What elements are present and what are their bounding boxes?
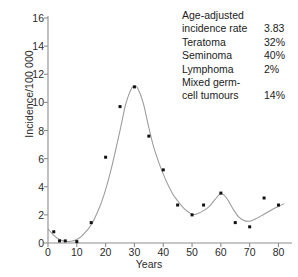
data-point [263, 197, 266, 200]
legend-row: Seminoma40% [182, 49, 294, 62]
legend-label: Teratoma [182, 36, 226, 49]
data-point [202, 204, 205, 207]
data-point [277, 204, 280, 207]
legend-value [264, 76, 294, 89]
data-point [104, 156, 107, 159]
legend-row: Age-adjusted [182, 9, 294, 22]
legend-value: 32% [264, 36, 294, 49]
legend-label: Age-adjusted [182, 9, 244, 22]
legend-row: Mixed germ- [182, 76, 294, 89]
legend-value: 40% [264, 49, 294, 62]
data-point [219, 192, 222, 195]
data-point [75, 240, 78, 243]
legend-value: 3.83 [264, 22, 294, 35]
legend-row: cell tumours14% [182, 89, 294, 102]
data-point [64, 239, 67, 242]
chart-legend: Age-adjustedincidence rate3.83Teratoma32… [182, 9, 294, 103]
legend-label: Seminoma [182, 49, 232, 62]
legend-row: Teratoma32% [182, 36, 294, 49]
data-point [119, 105, 122, 108]
data-point [52, 230, 55, 233]
data-point [191, 213, 194, 216]
legend-value [264, 9, 294, 22]
fitted-curve [48, 86, 284, 242]
data-point [234, 221, 237, 224]
legend-row: incidence rate3.83 [182, 22, 294, 35]
legend-value: 2% [264, 63, 294, 76]
data-point [133, 85, 136, 88]
incidence-chart: Incidence/100 000 Years 0246810121416 01… [0, 0, 298, 277]
data-point [176, 204, 179, 207]
data-point [162, 168, 165, 171]
legend-label: cell tumours [182, 89, 239, 102]
legend-label: Lymphoma [182, 63, 234, 76]
data-point [248, 225, 251, 228]
legend-label: Mixed germ- [182, 76, 240, 89]
data-point [90, 221, 93, 224]
legend-value: 14% [264, 89, 294, 102]
legend-label: incidence rate [182, 22, 247, 35]
data-point [147, 135, 150, 138]
legend-row: Lymphoma2% [182, 63, 294, 76]
data-point [58, 239, 61, 242]
